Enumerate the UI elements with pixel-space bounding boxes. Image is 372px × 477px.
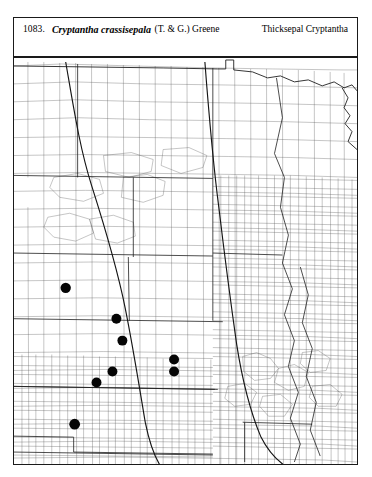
occurrence-dot [92, 377, 102, 387]
distribution-map-frame [13, 57, 358, 465]
occurrence-dot [69, 419, 80, 430]
occurrence-dot [117, 336, 127, 346]
record-number: 1083. [23, 24, 45, 34]
distribution-map [14, 58, 357, 464]
common-name: Thicksepal Cryptantha [262, 18, 348, 40]
occurrence-dot-layer [61, 283, 180, 430]
occurrence-dot [169, 366, 179, 376]
occurrence-dot [111, 314, 121, 324]
occurrence-dot [169, 355, 179, 365]
header-frame: 1083. Cryptantha crassisepala (T. & G.) … [13, 17, 358, 57]
page-canvas: 1083. Cryptantha crassisepala (T. & G.) … [0, 0, 372, 477]
occurrence-dot [61, 283, 71, 293]
occurrence-dot [107, 366, 117, 376]
range-boundary-layer [66, 62, 301, 464]
county-boundary-layer [14, 62, 357, 464]
scientific-name: Cryptantha crassisepala [52, 24, 151, 35]
western-range-line [66, 62, 169, 464]
taxon-authority: (T. & G.) Greene [155, 24, 220, 34]
